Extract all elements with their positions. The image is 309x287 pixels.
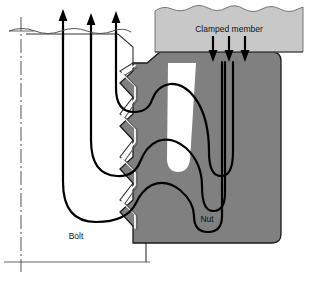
bolt-body: [26, 34, 146, 262]
figure-canvas: Clamped member Bolt Nut: [0, 0, 309, 287]
nut-label: Nut: [200, 214, 214, 224]
bolt-outline: [26, 34, 146, 262]
clamped-member-label: Clamped member: [195, 24, 263, 34]
bolt-label: Bolt: [69, 231, 84, 241]
bolted-joint-diagram: Clamped member Bolt Nut: [0, 0, 309, 287]
